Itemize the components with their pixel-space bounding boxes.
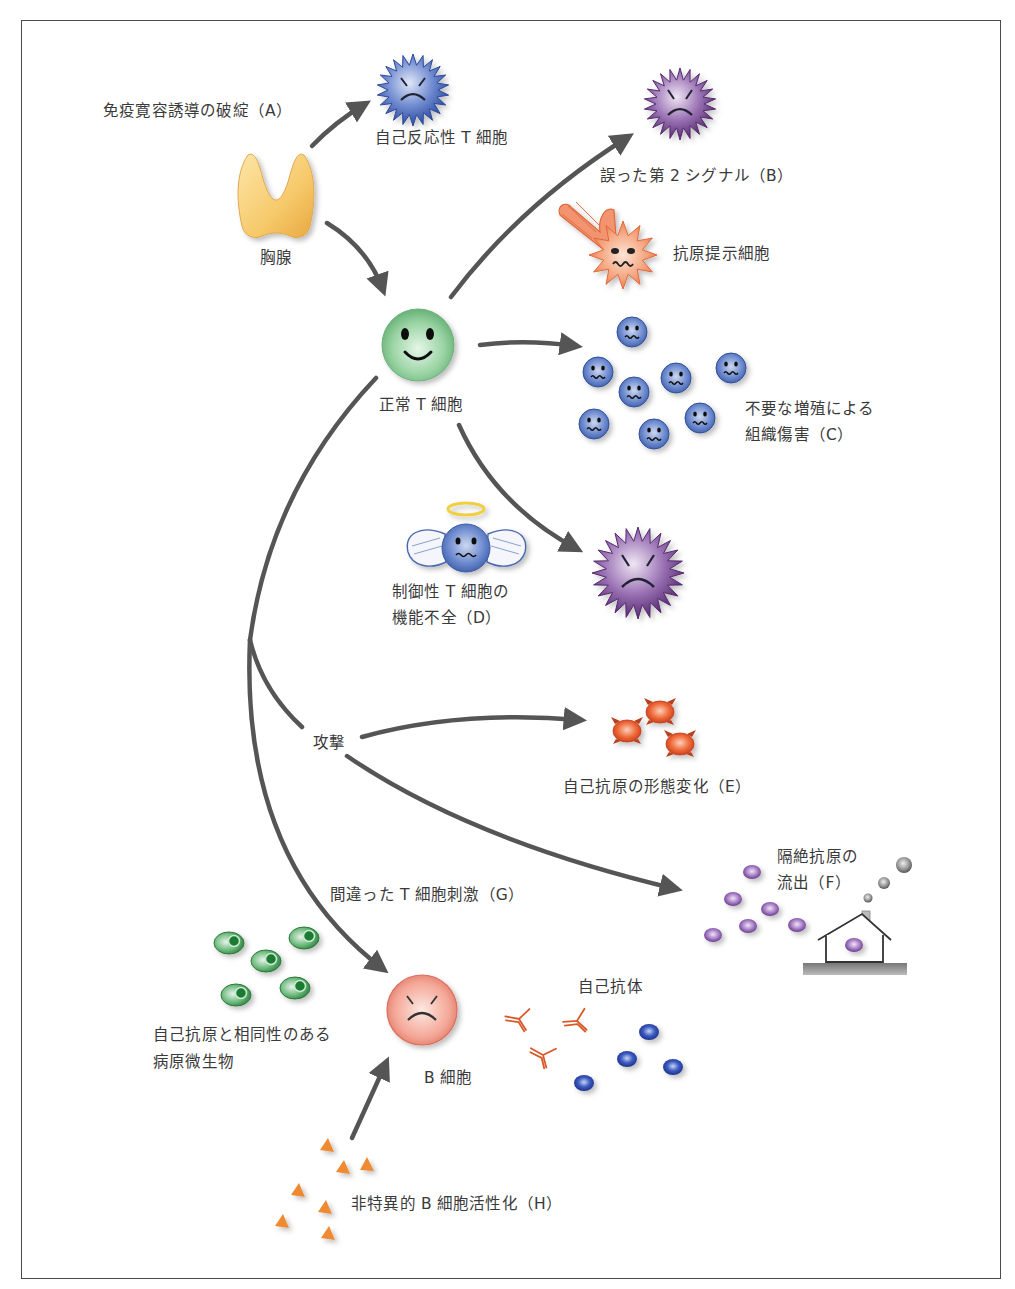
mechanism-c-label-line1: 不要な増殖による bbox=[745, 397, 875, 421]
autoantibody-target-dots bbox=[574, 1024, 683, 1091]
b-cell-icon bbox=[387, 975, 457, 1045]
autoantibody-label: 自己抗体 bbox=[578, 975, 643, 999]
regulatory-t-cell-icon bbox=[407, 503, 525, 572]
arrow-attack-to-altered-self-antigen bbox=[362, 717, 580, 737]
autoreactive-t-cell-label: 自己反応性 T 細胞 bbox=[375, 126, 508, 150]
arrow-polyclonal-to-b-cell bbox=[352, 1063, 386, 1138]
pathogen-microbes-icon bbox=[214, 927, 319, 1006]
autoimmunity-diagram bbox=[0, 0, 1015, 1289]
arrow-main-branch-to-attack bbox=[250, 640, 302, 727]
autoantibody-icon bbox=[505, 1009, 594, 1070]
curve-normal-t-cell-main-branch bbox=[250, 378, 376, 640]
thymus-label: 胸腺 bbox=[260, 246, 292, 270]
normal-t-cell-icon bbox=[382, 309, 454, 381]
attack-label: 攻撃 bbox=[313, 731, 345, 755]
activated-t-cell-icon bbox=[644, 68, 715, 140]
antigen-presenting-cell-icon bbox=[559, 202, 657, 289]
house-icon bbox=[803, 911, 907, 975]
b-cell-label: B 細胞 bbox=[424, 1066, 472, 1090]
apc-label: 抗原提示細胞 bbox=[673, 242, 770, 266]
activated-effector-t-cell-icon bbox=[592, 527, 684, 619]
proliferating-t-cells-icon bbox=[579, 317, 746, 449]
mechanism-g-label: 間違った T 細胞刺激（G） bbox=[330, 883, 524, 907]
arrow-normal-t-cell-to-proliferation bbox=[480, 342, 576, 346]
microbe-label-line2: 病原微生物 bbox=[153, 1050, 234, 1074]
autoreactive-t-cell-icon bbox=[377, 54, 448, 126]
arrow-thymus-to-autoreactive-t-cell bbox=[312, 104, 365, 146]
normal-t-cell-label: 正常 T 細胞 bbox=[379, 393, 464, 417]
mechanism-c-label-line2: 組織傷害（C） bbox=[745, 423, 853, 447]
mechanism-e-label: 自己抗原の形態変化（E） bbox=[563, 775, 751, 799]
microbe-label-line1: 自己抗原と相同性のある bbox=[153, 1023, 331, 1047]
mechanism-a-label: 免疫寛容誘導の破綻（A） bbox=[103, 99, 292, 123]
altered-self-antigen-icon bbox=[611, 698, 696, 757]
mechanism-h-label: 非特異的 B 細胞活性化（H） bbox=[351, 1192, 562, 1216]
mechanism-b-label: 誤った第 2 シグナル（B） bbox=[600, 164, 793, 188]
smoke-icon bbox=[864, 857, 913, 903]
mechanism-d-label-line1: 制御性 T 細胞の bbox=[392, 580, 509, 604]
mechanism-f-label-line1: 隔絶抗原の bbox=[777, 845, 858, 869]
polyclonal-activator-icon bbox=[275, 1138, 374, 1240]
mechanism-f-label-line2: 流出（F） bbox=[777, 871, 851, 895]
mechanism-d-label-line2: 機能不全（D） bbox=[392, 606, 501, 630]
arrow-thymus-to-normal-t-cell bbox=[327, 223, 383, 290]
thymus-icon bbox=[238, 154, 314, 237]
